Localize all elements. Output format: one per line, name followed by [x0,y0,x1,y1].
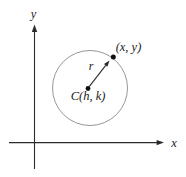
radius-label: r [89,59,94,73]
point-label: (x, y) [116,40,142,54]
center-label: C(h, k) [71,89,106,103]
x-axis-arrowhead-icon [157,140,164,145]
circle-diagram: x y (x, y) r C(h, k) [0,0,186,177]
x-axis-label: x [170,136,177,150]
point-dot [111,55,116,60]
diagram-canvas: x y (x, y) r C(h, k) [0,0,186,177]
y-axis-label: y [29,7,37,21]
y-axis-arrowhead-icon [32,25,37,32]
